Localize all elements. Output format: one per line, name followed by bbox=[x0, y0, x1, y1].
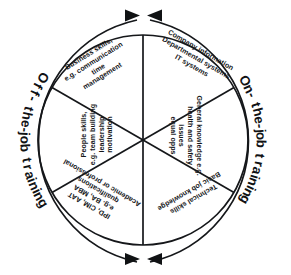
training-wheel-diagram: Business skills, e.g. communication time… bbox=[0, 0, 291, 275]
wheel-graphic bbox=[0, 0, 291, 275]
arrow-top-left-icon bbox=[125, 10, 140, 22]
arrow-bottom-right-icon bbox=[147, 253, 162, 265]
arrow-top-right-icon bbox=[147, 10, 162, 22]
arrow-bottom-left-icon bbox=[125, 253, 140, 265]
